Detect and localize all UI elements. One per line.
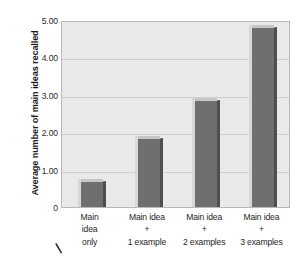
x-tick-label-line: +	[118, 223, 175, 235]
x-tick-label-line: Main	[61, 211, 118, 223]
y-tick-label: 4.00	[42, 53, 58, 63]
bar	[194, 100, 220, 207]
x-axis-tick-labels: MainideaonlyMain idea+1 exampleMain idea…	[61, 211, 290, 263]
x-tick-label-line: +	[233, 223, 290, 235]
y-tick-label: 0	[53, 203, 58, 213]
x-tick-label-line: 3 examples	[233, 236, 290, 248]
bar	[137, 138, 163, 207]
x-tick-label-line: +	[176, 223, 233, 235]
x-tick-label: Main idea+1 example	[118, 211, 175, 248]
x-tick-label-line: Main idea	[233, 211, 290, 223]
y-axis-tick-labels: 01.002.003.004.005.00	[24, 0, 58, 268]
bar	[80, 181, 106, 207]
x-tick-label-line: Main idea	[118, 211, 175, 223]
y-tick-label: 1.00	[42, 166, 58, 176]
x-tick-label: Main idea+3 examples	[233, 211, 290, 248]
bar-chart-figure: Average number of main ideas recalled 01…	[0, 0, 300, 268]
x-tick-label-line: Main idea	[176, 211, 233, 223]
x-tick-label: Mainideaonly	[61, 211, 118, 248]
plot-area	[61, 21, 290, 208]
y-tick-label: 2.00	[42, 128, 58, 138]
x-tick-label-line: idea	[61, 223, 118, 235]
y-tick-label: 5.00	[42, 16, 58, 26]
x-tick-label-line: 1 example	[118, 236, 175, 248]
x-tick-label: Main idea+2 examples	[176, 211, 233, 248]
x-tick-label-line: only	[61, 236, 118, 248]
y-tick-label: 3.00	[42, 91, 58, 101]
bar	[251, 27, 277, 207]
stray-pen-mark	[55, 243, 63, 254]
x-tick-label-line: 2 examples	[176, 236, 233, 248]
